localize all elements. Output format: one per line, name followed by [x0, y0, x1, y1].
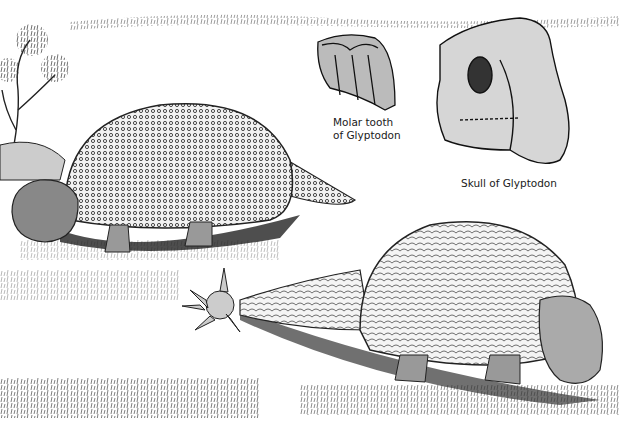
- skull-label: Skull of Glyptodon: [461, 177, 557, 190]
- rock: [0, 142, 65, 180]
- molar-tooth-label: Molar tooth of Glyptodon: [333, 116, 401, 142]
- glyptodon-illustration: [0, 0, 634, 428]
- molar-tooth-label-line1: Molar tooth: [333, 116, 401, 129]
- glyptodon-left: [12, 104, 355, 252]
- spiked-tail-club-icon: [182, 268, 240, 332]
- molar-tooth: [318, 35, 395, 110]
- skull: [437, 18, 569, 163]
- molar-tooth-label-line2: of Glyptodon: [333, 129, 401, 142]
